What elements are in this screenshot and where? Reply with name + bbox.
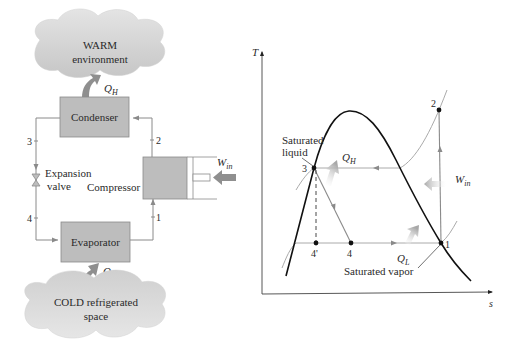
state-2-label: 2 xyxy=(156,135,161,146)
ts-qh-arrow-icon xyxy=(325,160,339,186)
warm-cloud-line1: WARM xyxy=(83,39,117,51)
ts-ql-arrow-icon xyxy=(405,225,419,245)
flow-arrow-icon xyxy=(373,166,379,171)
cold-cloud-line1: COLD refrigerated xyxy=(54,296,138,308)
compressor xyxy=(143,157,217,199)
ts-qh-label: QH xyxy=(342,151,357,166)
flow-arrow-icon xyxy=(133,116,139,121)
state-1-label: 1 xyxy=(156,212,161,223)
s-axis-label: s xyxy=(489,298,493,309)
schematic-qh-label: QH xyxy=(104,82,119,97)
cold-cloud-line2: space xyxy=(84,310,109,322)
schematic-win-label: Win xyxy=(217,156,232,171)
refrigeration-cycle-figure: WARM environment QH Condenser Evaporator… xyxy=(0,0,509,356)
ts-point-1-label: 1 xyxy=(445,239,450,250)
expansion-valve-line1: Expansion xyxy=(45,167,92,179)
cold-space-cloud: COLD refrigerated space xyxy=(25,270,166,338)
work-in-arrow-icon xyxy=(213,170,236,185)
warm-environment-cloud: WARM environment xyxy=(35,9,165,78)
ts-win-label: Win xyxy=(455,173,470,188)
saturated-vapor-leader xyxy=(418,245,440,268)
piston-rod xyxy=(193,174,210,181)
evaporator-box: Evaporator xyxy=(61,222,130,262)
saturated-vapor-label: Saturated vapor xyxy=(344,265,414,277)
state-4-label: 4 xyxy=(27,213,32,224)
expansion-valve-icon xyxy=(32,174,40,186)
flow-arrow-icon xyxy=(34,164,39,170)
saturated-liquid-label-line2: liquid xyxy=(282,146,308,158)
ts-point-4-label: 4 xyxy=(347,248,352,259)
state-3-label: 3 xyxy=(27,136,32,147)
flow-arrow-icon xyxy=(438,146,443,152)
ts-win-arrow-icon xyxy=(424,177,446,191)
warm-cloud-line2: environment xyxy=(72,53,128,65)
saturated-liquid-label-line1: Saturated xyxy=(282,134,324,146)
evaporator-label: Evaporator xyxy=(71,236,120,248)
state-ticks xyxy=(34,140,155,218)
t-axis-label: T xyxy=(252,46,259,58)
ts-point-4prime-label: 4' xyxy=(311,248,318,259)
compressor-label: Compressor xyxy=(87,181,141,193)
qh-arrow-icon xyxy=(82,74,101,98)
expansion-valve-line2: valve xyxy=(47,180,71,192)
flow-arrow-icon xyxy=(52,238,58,243)
ts-point-3-label: 3 xyxy=(302,163,307,174)
flow-arrow-icon xyxy=(391,241,397,246)
ts-point-2-label: 2 xyxy=(431,98,436,109)
condenser-box: Condenser xyxy=(60,97,129,137)
flow-arrow-icon xyxy=(151,199,156,205)
condenser-label: Condenser xyxy=(71,111,118,123)
